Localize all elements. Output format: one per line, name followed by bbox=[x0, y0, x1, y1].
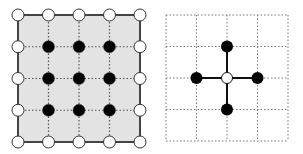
boundary-node bbox=[134, 136, 146, 148]
interior-node bbox=[73, 41, 85, 53]
stencil-neighbor-node bbox=[191, 72, 203, 84]
boundary-node bbox=[43, 9, 55, 21]
boundary-node bbox=[73, 9, 85, 21]
boundary-node bbox=[134, 73, 146, 85]
boundary-node bbox=[134, 41, 146, 53]
diagram-canvas bbox=[0, 0, 303, 154]
boundary-node bbox=[104, 136, 116, 148]
boundary-node bbox=[12, 41, 24, 53]
boundary-node bbox=[134, 9, 146, 21]
stencil-neighbor-node bbox=[221, 104, 233, 116]
interior-node bbox=[104, 41, 116, 53]
interior-node bbox=[104, 104, 116, 116]
boundary-node bbox=[104, 9, 116, 21]
boundary-node bbox=[73, 136, 85, 148]
interior-node bbox=[43, 104, 55, 116]
boundary-node bbox=[12, 9, 24, 21]
interior-node bbox=[104, 73, 116, 85]
boundary-node bbox=[12, 136, 24, 148]
boundary-node bbox=[12, 73, 24, 85]
boundary-node bbox=[12, 104, 24, 116]
interior-node bbox=[73, 73, 85, 85]
interior-node bbox=[43, 73, 55, 85]
interior-node bbox=[73, 104, 85, 116]
stencil-neighbor-node bbox=[221, 41, 233, 53]
boundary-node bbox=[134, 104, 146, 116]
interior-node bbox=[43, 41, 55, 53]
stencil-center-node bbox=[222, 73, 233, 84]
stencil-neighbor-node bbox=[252, 72, 264, 84]
boundary-node bbox=[43, 136, 55, 148]
